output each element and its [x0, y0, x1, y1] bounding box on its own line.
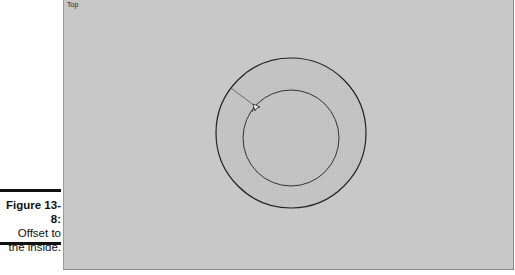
caption-line-1: Offset to [0, 226, 61, 240]
caption-rule-bottom [0, 242, 61, 245]
viewport-canvas[interactable] [64, 0, 515, 270]
caption-rule-top [0, 189, 61, 192]
figure-number: Figure 13-8: [0, 198, 61, 226]
figure-caption: Figure 13-8: Offset to the inside. [0, 198, 61, 254]
top-viewport[interactable]: Top [63, 0, 514, 270]
